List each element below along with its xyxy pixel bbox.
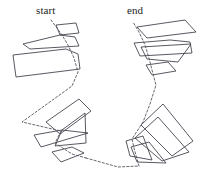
figure-canvas (0, 0, 211, 182)
polygon-right-6 (135, 117, 189, 161)
dashed-path-connector (86, 158, 139, 167)
polygon-left-7 (52, 147, 84, 162)
polygon-left-2 (23, 35, 79, 49)
polygon-right-1 (137, 20, 196, 38)
dashed-path-right (132, 22, 156, 166)
polygon-left-1 (56, 23, 79, 35)
start-label: start (36, 5, 55, 16)
polygon-right-2 (134, 40, 192, 56)
end-label: end (127, 5, 143, 16)
polygon-group-right (126, 20, 196, 163)
polygon-group-left (13, 23, 91, 162)
polygon-right-3 (141, 44, 191, 62)
polygon-right-7 (126, 136, 152, 160)
polygon-left-4 (46, 99, 91, 134)
polygon-left-3 (13, 49, 80, 77)
traversal-path-group (22, 20, 156, 167)
figure-container: start end (0, 0, 211, 182)
